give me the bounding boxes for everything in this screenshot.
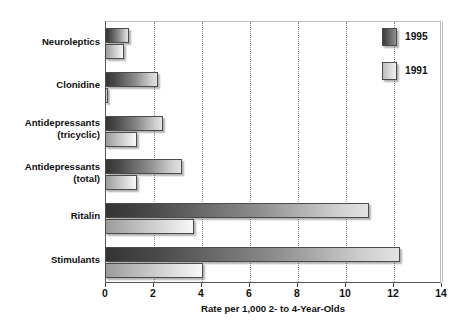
tick-mark-0 [105,283,106,287]
category-label-line1: Clonidine [0,79,100,91]
tick-mark-14 [441,283,442,287]
legend-label: 1991 [405,65,428,76]
gridline-14 [442,22,443,282]
x-axis-title: Rate per 1,000 2- to 4-Year-Olds [105,303,441,314]
bar-group [105,152,441,196]
bar-1995 [105,159,182,174]
bar-1995 [105,116,163,131]
bar-chart: y s s - y : l s NeurolepticsClonidineAnt… [0,0,456,328]
bar-1995 [105,28,129,43]
tick-label-8: 8 [277,288,317,299]
category-label-line2: (total) [0,173,100,185]
category-labels: NeurolepticsClonidineAntidepressants(tri… [0,21,100,283]
tick-label-10: 10 [325,288,365,299]
tick-label-2: 2 [133,288,173,299]
bar-1995 [105,247,400,262]
bar-group [105,239,441,283]
legend-label: 1995 [405,31,428,42]
tick-label-0: 0 [85,288,125,299]
tick-label-6: 6 [229,288,269,299]
tick-mark-2 [153,283,154,287]
bar-group [105,108,441,152]
light-gradient-swatch [382,62,397,80]
tick-mark-12 [393,283,394,287]
category-label: Stimulants [0,254,100,266]
bar-group [105,196,441,240]
category-label: Antidepressants(total) [0,161,100,185]
tick-label-12: 12 [373,288,413,299]
bars-layer [105,21,441,283]
bar-1991 [105,44,124,59]
category-label: Clonidine [0,79,100,91]
tick-mark-10 [345,283,346,287]
bar-1995 [105,72,158,87]
dark-gradient-swatch [382,28,397,46]
category-label-line1: Antidepressants [0,161,100,173]
tick-mark-4 [201,283,202,287]
category-label-line1: Ritalin [0,210,100,222]
bar-1991 [105,132,137,147]
bar-1991 [105,175,137,190]
tick-label-4: 4 [181,288,221,299]
category-label-line2: (tricyclic) [0,129,100,141]
bar-1991 [105,263,203,278]
category-label: Antidepressants(tricyclic) [0,117,100,141]
bar-1991 [105,219,194,234]
bar-1995 [105,203,369,218]
bar-1991 [105,88,108,103]
category-label-line1: Neuroleptics [0,36,100,48]
category-label-line1: Stimulants [0,254,100,266]
tick-mark-8 [297,283,298,287]
tick-mark-6 [249,283,250,287]
category-label: Neuroleptics [0,36,100,48]
x-axis-ticks: 02468101214 [105,283,441,303]
category-label-line1: Antidepressants [0,117,100,129]
category-label: Ritalin [0,210,100,222]
tick-label-14: 14 [421,288,456,299]
